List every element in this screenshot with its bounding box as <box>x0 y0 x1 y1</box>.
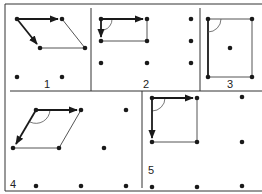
panel-label: 2 <box>143 78 149 90</box>
panel-label: 3 <box>227 78 233 90</box>
unit-cell-outline <box>13 110 81 148</box>
basis-vector-b <box>16 110 36 144</box>
lattice-diagram: 1 2 3 <box>0 0 262 194</box>
unit-cell-outline <box>40 19 85 48</box>
panel-4: 4 <box>10 108 128 190</box>
panel-frame <box>5 4 262 191</box>
basis-vector-b <box>17 19 37 44</box>
panel-5: 5 <box>148 95 244 190</box>
angle-arc <box>208 19 221 32</box>
panel-label: 1 <box>44 78 50 90</box>
angle-arc <box>104 19 112 30</box>
panel-label: 4 <box>10 178 16 190</box>
panel-3: 3 <box>206 17 255 90</box>
lattice-dots <box>206 17 255 80</box>
panel-1: 1 <box>15 17 88 90</box>
unit-cell-outline <box>101 19 147 41</box>
panel-label: 5 <box>148 164 154 176</box>
angle-arc <box>152 98 165 111</box>
panel-2: 2 <box>99 17 194 90</box>
unit-cell-outline <box>152 98 197 142</box>
